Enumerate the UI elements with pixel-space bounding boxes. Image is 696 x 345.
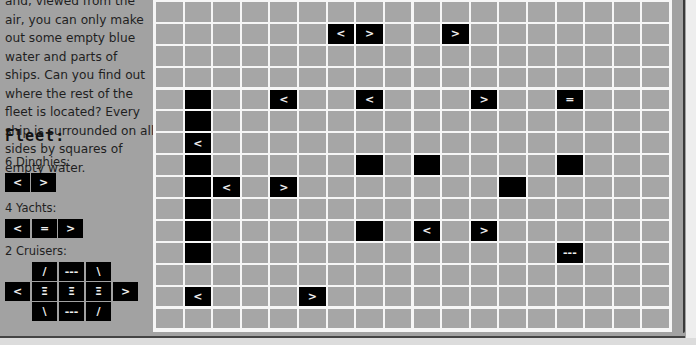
grid-cell-water[interactable] [414,177,441,197]
grid-cell-water[interactable] [356,243,383,263]
grid-cell-ship[interactable]: < [270,90,297,110]
grid-cell-water[interactable] [614,177,641,197]
grid-cell-water[interactable] [328,111,355,131]
grid-cell-water[interactable] [156,199,183,219]
grid-cell-water[interactable] [328,133,355,153]
grid-cell-water[interactable] [614,90,641,110]
grid-cell-water[interactable] [299,265,326,285]
grid-cell-water[interactable] [499,90,526,110]
grid-cell-water[interactable] [414,111,441,131]
grid-cell-ship[interactable]: < [356,90,383,110]
grid-cell-ship[interactable] [185,111,212,131]
grid-cell-water[interactable] [442,90,469,110]
grid-cell-water[interactable] [442,309,469,329]
grid-cell-water[interactable] [414,46,441,66]
grid-cell-water[interactable] [442,265,469,285]
grid-cell-water[interactable] [614,133,641,153]
grid-cell-water[interactable] [528,309,555,329]
grid-cell-water[interactable] [328,287,355,307]
grid-cell-water[interactable] [614,265,641,285]
grid-cell-water[interactable] [185,46,212,66]
grid-cell-water[interactable] [385,2,412,22]
grid-cell-water[interactable] [442,287,469,307]
grid-cell-water[interactable] [356,199,383,219]
grid-cell-water[interactable] [385,309,412,329]
grid-cell-water[interactable] [585,133,612,153]
grid-cell-water[interactable] [328,199,355,219]
grid-cell-ship[interactable]: > [270,177,297,197]
grid-cell-water[interactable] [585,177,612,197]
grid-cell-water[interactable] [614,68,641,88]
grid-cell-water[interactable] [528,133,555,153]
grid-cell-water[interactable] [642,221,669,241]
grid-cell-water[interactable] [528,199,555,219]
grid-cell-ship[interactable]: < [328,24,355,44]
grid-cell-water[interactable] [242,221,269,241]
grid-cell-water[interactable] [356,309,383,329]
grid-cell-ship[interactable] [185,243,212,263]
grid-cell-water[interactable] [614,221,641,241]
grid-cell-water[interactable] [614,155,641,175]
grid-cell-water[interactable] [499,199,526,219]
grid-cell-water[interactable] [642,24,669,44]
grid-cell-water[interactable] [299,243,326,263]
grid-cell-water[interactable] [356,287,383,307]
grid-cell-water[interactable] [156,287,183,307]
grid-cell-water[interactable] [270,68,297,88]
grid-cell-water[interactable] [299,68,326,88]
grid-cell-water[interactable] [499,287,526,307]
grid-cell-water[interactable] [614,287,641,307]
grid-cell-water[interactable] [242,46,269,66]
grid-cell-water[interactable] [156,155,183,175]
grid-cell-water[interactable] [328,309,355,329]
grid-cell-water[interactable] [471,2,498,22]
grid-cell-water[interactable] [270,221,297,241]
grid-cell-water[interactable] [471,265,498,285]
grid-cell-water[interactable] [156,221,183,241]
grid-cell-water[interactable] [270,24,297,44]
grid-cell-water[interactable] [213,199,240,219]
grid-cell-water[interactable] [642,287,669,307]
grid-cell-water[interactable] [156,243,183,263]
grid-cell-water[interactable] [442,68,469,88]
grid-cell-water[interactable] [385,177,412,197]
grid-cell-water[interactable] [642,309,669,329]
grid-cell-water[interactable] [414,68,441,88]
grid-cell-water[interactable] [156,309,183,329]
grid-cell-water[interactable] [471,24,498,44]
grid-cell-water[interactable] [356,68,383,88]
grid-cell-water[interactable] [242,90,269,110]
grid-cell-water[interactable] [270,199,297,219]
grid-cell-water[interactable] [499,309,526,329]
grid-cell-water[interactable] [471,177,498,197]
grid-cell-ship[interactable]: < [414,221,441,241]
grid-cell-water[interactable] [242,309,269,329]
grid-cell-ship[interactable] [356,221,383,241]
grid-cell-water[interactable] [499,68,526,88]
grid-cell-water[interactable] [385,68,412,88]
grid-cell-ship[interactable]: > [356,24,383,44]
grid-cell-ship[interactable] [185,221,212,241]
grid-cell-water[interactable] [385,24,412,44]
grid-cell-water[interactable] [642,2,669,22]
grid-cell-water[interactable] [270,2,297,22]
grid-cell-water[interactable] [557,309,584,329]
grid-cell-water[interactable] [557,133,584,153]
grid-cell-water[interactable] [642,177,669,197]
grid-cell-water[interactable] [213,243,240,263]
grid-cell-water[interactable] [614,199,641,219]
grid-cell-water[interactable] [442,2,469,22]
grid-cell-water[interactable] [328,177,355,197]
grid-cell-water[interactable] [499,155,526,175]
grid-cell-water[interactable] [414,265,441,285]
grid-cell-water[interactable] [414,2,441,22]
grid-cell-water[interactable] [156,133,183,153]
grid-cell-water[interactable] [299,111,326,131]
grid-cell-water[interactable] [642,46,669,66]
grid-cell-ship[interactable]: > [471,221,498,241]
grid-cell-water[interactable] [356,177,383,197]
grid-cell-water[interactable] [471,133,498,153]
grid-cell-ship[interactable] [356,155,383,175]
grid-cell-water[interactable] [213,221,240,241]
grid-cell-water[interactable] [528,24,555,44]
